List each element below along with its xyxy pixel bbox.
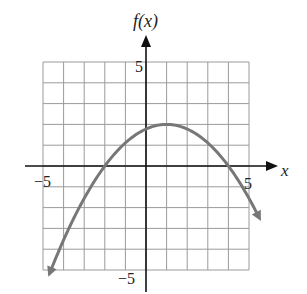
y-tick-min: −5 (118, 270, 135, 287)
x-axis (25, 161, 278, 171)
x-axis-label: x (280, 161, 289, 180)
y-axis-label: f(x) (133, 11, 158, 32)
parabola-graph: f(x) x −5 5 5 −5 (0, 0, 307, 294)
parabola-curve (51, 124, 257, 269)
y-tick-max: 5 (135, 58, 143, 75)
x-tick-min: −5 (34, 173, 51, 190)
x-tick-max: 5 (244, 175, 252, 192)
